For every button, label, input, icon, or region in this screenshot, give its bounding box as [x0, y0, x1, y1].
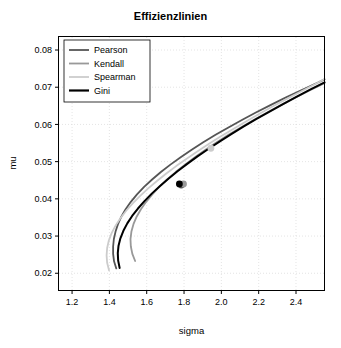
legend-label-kendall: Kendall: [94, 59, 124, 69]
efficiency-frontier-chart: Effizienzlinien 1.21.41.61.82.02.22.4 0.…: [0, 0, 341, 348]
x-axis-label: sigma: [179, 325, 205, 336]
x-tick-label: 2.0: [215, 297, 228, 307]
legend-label-gini: Gini: [94, 86, 110, 96]
chart-legend: PearsonKendallSpearmanGini: [64, 40, 150, 102]
y-tick-label: 0.02: [34, 268, 52, 278]
chart-container: Effizienzlinien 1.21.41.61.82.02.22.4 0.…: [0, 0, 341, 348]
y-tick-label: 0.06: [34, 120, 52, 130]
x-tick-label: 2.2: [252, 297, 265, 307]
y-tick-label: 0.08: [34, 45, 52, 55]
y-axis-label: mu: [7, 156, 18, 169]
x-tick-label: 2.4: [290, 297, 303, 307]
marker-gini: [176, 181, 183, 188]
legend-label-pearson: Pearson: [94, 45, 128, 55]
marker-spearman: [208, 145, 215, 152]
chart-title: Effizienzlinien: [134, 10, 208, 22]
y-tick-label: 0.04: [34, 194, 52, 204]
x-tick-label: 1.4: [103, 297, 116, 307]
x-tick-label: 1.6: [140, 297, 153, 307]
y-tick-label: 0.03: [34, 231, 52, 241]
y-tick-label: 0.07: [34, 82, 52, 92]
x-tick-label: 1.2: [66, 297, 79, 307]
y-tick-label: 0.05: [34, 157, 52, 167]
x-tick-label: 1.8: [178, 297, 191, 307]
legend-label-spearman: Spearman: [94, 72, 136, 82]
